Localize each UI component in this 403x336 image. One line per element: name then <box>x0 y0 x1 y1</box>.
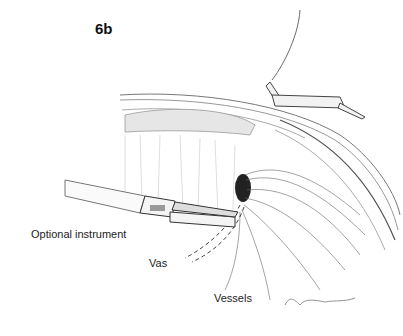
figure-label: 6b <box>95 20 113 37</box>
surgical-illustration <box>0 0 403 336</box>
label-vessels: Vessels <box>214 292 252 304</box>
label-optional-instrument: Optional instrument <box>31 228 126 240</box>
label-vas: Vas <box>149 257 167 269</box>
